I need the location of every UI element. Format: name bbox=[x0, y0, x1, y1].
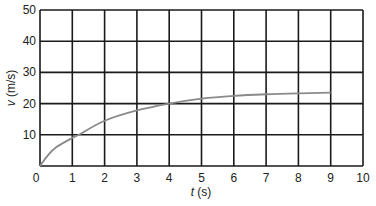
x-tick-label: 7 bbox=[263, 171, 270, 185]
y-axis-unit: (m/s) bbox=[4, 70, 18, 101]
y-tick-label: 50 bbox=[23, 3, 37, 17]
y-tick-label: 20 bbox=[23, 97, 37, 111]
x-axis-ticks: 012345678910 bbox=[33, 171, 370, 185]
y-axis-ticks: 1020304050 bbox=[23, 3, 37, 142]
x-axis-label: t (s) bbox=[191, 185, 212, 199]
velocity-time-chart: 1020304050 012345678910 v (m/s) t (s) bbox=[0, 0, 376, 206]
y-tick-label: 40 bbox=[23, 34, 37, 48]
x-tick-label: 2 bbox=[101, 171, 108, 185]
y-tick-label: 30 bbox=[23, 65, 37, 79]
x-tick-label: 6 bbox=[230, 171, 237, 185]
x-tick-label: 9 bbox=[327, 171, 334, 185]
x-tick-label: 5 bbox=[198, 171, 205, 185]
x-tick-label: 3 bbox=[134, 171, 141, 185]
x-tick-label: 0 bbox=[33, 171, 40, 185]
grid-lines bbox=[40, 10, 363, 166]
y-axis-label: v (m/s) bbox=[4, 70, 18, 107]
x-tick-label: 1 bbox=[69, 171, 76, 185]
x-axis-unit: (s) bbox=[194, 185, 211, 199]
x-tick-label: 8 bbox=[295, 171, 302, 185]
x-tick-label: 4 bbox=[166, 171, 173, 185]
y-tick-label: 10 bbox=[23, 128, 37, 142]
x-tick-label: 10 bbox=[356, 171, 370, 185]
